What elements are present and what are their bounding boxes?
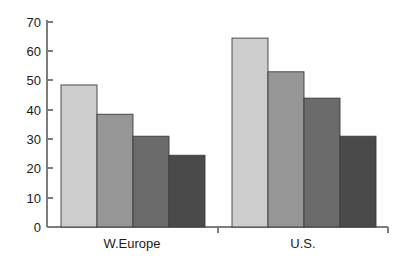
y-tick-label-0: 0 xyxy=(34,220,41,235)
bar-2-2 xyxy=(268,72,304,227)
y-axis-tick-labels: 70 60 50 40 30 20 10 0 xyxy=(27,15,41,235)
y-axis-ticks xyxy=(47,22,53,227)
x-axis-category-labels: W.Europe U.S. xyxy=(103,236,315,251)
y-tick-label-30: 30 xyxy=(27,132,41,147)
bar-2-3 xyxy=(304,98,340,227)
bar-group-w-europe xyxy=(61,85,205,227)
bar-2-4 xyxy=(340,136,376,227)
y-tick-label-70: 70 xyxy=(27,15,41,30)
bar-1-3 xyxy=(133,136,169,227)
bar-1-1 xyxy=(61,85,97,227)
y-tick-label-20: 20 xyxy=(27,161,41,176)
y-tick-label-60: 60 xyxy=(27,44,41,59)
x-axis-ticks xyxy=(218,227,388,233)
y-tick-label-40: 40 xyxy=(27,103,41,118)
x-category-label-w-europe: W.Europe xyxy=(103,236,160,251)
bar-1-2 xyxy=(97,114,133,227)
x-category-label-us: U.S. xyxy=(290,236,315,251)
y-tick-label-50: 50 xyxy=(27,73,41,88)
y-tick-label-10: 10 xyxy=(27,191,41,206)
bar-chart: 70 60 50 40 30 20 10 0 W.Europe U.S. xyxy=(0,0,413,266)
bar-group-u-s xyxy=(232,38,376,227)
bar-2-1 xyxy=(232,38,268,227)
bars-layer xyxy=(61,38,376,227)
bar-1-4 xyxy=(169,155,205,227)
chart-canvas: 70 60 50 40 30 20 10 0 W.Europe U.S. xyxy=(0,0,413,266)
